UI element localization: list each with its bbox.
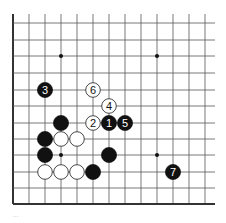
star-point-icon xyxy=(59,153,63,157)
move-number-label: 1 xyxy=(106,117,112,129)
move-number-label: 6 xyxy=(90,84,96,96)
black-stone xyxy=(53,115,68,130)
white-stone xyxy=(38,165,53,180)
star-point-icon xyxy=(155,54,159,58)
white-stone-2: 2 xyxy=(86,116,101,131)
move-number-label: 5 xyxy=(122,117,128,129)
move-number-label: 3 xyxy=(42,84,48,96)
white-stone xyxy=(70,132,85,147)
white-stone xyxy=(54,165,69,180)
star-point-icon xyxy=(59,54,63,58)
star-point-icon xyxy=(155,153,159,157)
go-board-diagram: 1234567 xyxy=(0,0,226,223)
white-stone-6: 6 xyxy=(86,83,101,98)
move-number-label: 4 xyxy=(106,100,112,112)
white-stone xyxy=(54,132,69,147)
black-stone-5: 5 xyxy=(117,115,132,130)
black-stone-3: 3 xyxy=(37,82,52,97)
black-stone-1: 1 xyxy=(101,115,116,130)
black-stone-7: 7 xyxy=(165,164,180,179)
black-stone xyxy=(37,147,52,162)
move-number-label: 2 xyxy=(90,117,96,129)
white-stone-4: 4 xyxy=(102,99,117,114)
black-stone xyxy=(101,147,116,162)
diagram-caption: … xyxy=(12,211,20,218)
black-stone xyxy=(85,164,100,179)
black-stone xyxy=(37,131,52,146)
white-stone xyxy=(70,165,85,180)
move-number-label: 7 xyxy=(170,166,176,178)
